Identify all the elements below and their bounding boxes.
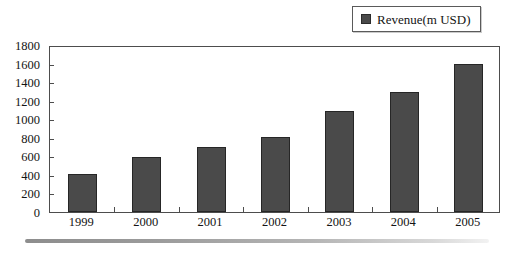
x-minor-tick xyxy=(372,207,373,212)
y-tick-mark xyxy=(49,102,54,103)
legend-entry-revenue: Revenue(m USD) xyxy=(361,13,471,26)
y-tick-mark xyxy=(49,139,54,140)
y-tick-mark xyxy=(49,65,54,66)
y-tick-label: 800 xyxy=(21,133,40,146)
x-minor-tick xyxy=(114,207,115,212)
y-tick-label: 1400 xyxy=(15,77,40,90)
x-tick-label-2000: 2000 xyxy=(133,216,158,229)
chart-legend: Revenue(m USD) xyxy=(352,6,481,32)
y-tick-label: 1800 xyxy=(15,40,40,53)
y-tick-label: 400 xyxy=(21,170,40,183)
y-axis: 020040060080010001200140016001800 xyxy=(0,46,45,213)
x-tick-label-1999: 1999 xyxy=(69,216,94,229)
x-tick-label-2001: 2001 xyxy=(198,216,223,229)
y-tick-mark xyxy=(49,83,54,84)
x-minor-tick xyxy=(308,207,309,212)
bottom-divider xyxy=(25,239,489,243)
x-tick-label-2005: 2005 xyxy=(455,216,480,229)
bar-1999 xyxy=(68,174,97,213)
y-tick-mark xyxy=(49,120,54,121)
bar-2003 xyxy=(325,111,354,212)
y-tick-mark xyxy=(49,157,54,158)
x-tick-label-2003: 2003 xyxy=(326,216,351,229)
plot-frame xyxy=(49,46,500,213)
bar-2005 xyxy=(454,64,483,212)
y-tick-mark xyxy=(49,194,54,195)
y-tick-mark xyxy=(49,176,54,177)
bar-2000 xyxy=(132,157,161,212)
plot-area xyxy=(50,47,499,212)
bar-2004 xyxy=(390,92,419,212)
y-tick-label: 600 xyxy=(21,151,40,164)
legend-label-revenue: Revenue(m USD) xyxy=(377,13,471,26)
y-tick-label: 1600 xyxy=(15,58,40,71)
revenue-bar-chart: Revenue(m USD) 0200400600800100012001400… xyxy=(0,0,519,257)
x-minor-tick xyxy=(437,207,438,212)
y-tick-label: 0 xyxy=(34,207,40,220)
bar-2002 xyxy=(261,137,290,212)
y-tick-label: 1000 xyxy=(15,114,40,127)
legend-swatch-revenue xyxy=(361,14,371,24)
x-tick-label-2004: 2004 xyxy=(391,216,416,229)
y-tick-label: 1200 xyxy=(15,95,40,108)
x-minor-tick xyxy=(179,207,180,212)
y-tick-label: 200 xyxy=(21,188,40,201)
x-axis: 1999200020012002200320042005 xyxy=(49,216,500,236)
x-tick-label-2002: 2002 xyxy=(262,216,287,229)
bar-2001 xyxy=(197,147,226,212)
x-minor-tick xyxy=(243,207,244,212)
